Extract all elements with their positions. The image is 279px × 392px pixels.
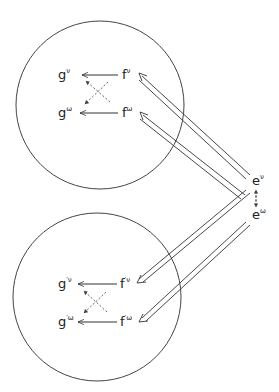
source-arrows (137, 73, 250, 322)
bottom-cluster-circle (13, 213, 181, 381)
node-e-w: eω (252, 207, 266, 222)
node-g-prime-w: g′ω (58, 314, 74, 329)
bottom-cluster-arrows (78, 284, 117, 322)
node-e-v: eν (252, 173, 264, 188)
top-cluster-circle (16, 21, 184, 189)
node-f-prime-w: f′ω (120, 314, 132, 329)
node-g-w: gω (58, 105, 72, 120)
node-g-v: gν (58, 67, 70, 82)
node-f-prime-v: f′ν (120, 276, 130, 291)
node-g-prime-v: g′ν (58, 276, 72, 291)
diagram-canvas: gν fν gω fω g′ν f′ν g′ω f′ω eν eω (0, 0, 279, 392)
top-cluster-arrows (80, 75, 118, 113)
node-f-v: fν (122, 67, 131, 82)
node-f-w: fω (122, 105, 133, 120)
